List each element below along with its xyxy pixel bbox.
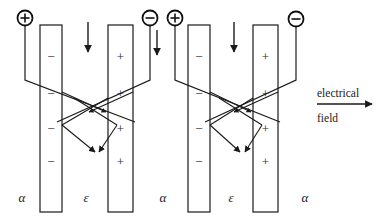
plate-4-sign: +: [262, 154, 269, 169]
wire-cell2-right: [205, 27, 296, 122]
plate-1-sign: −: [47, 49, 54, 64]
region-label-epsilon-1: ε: [83, 190, 89, 205]
trajectory-cell2-down-left: [210, 125, 240, 152]
plate-2-sign: +: [117, 49, 124, 64]
plate-2-sign: +: [117, 154, 124, 169]
plate-3-sign: −: [195, 49, 202, 64]
electrical-field-label-line1: electrical: [317, 87, 359, 99]
trajectory-cell1-down-left: [62, 125, 95, 152]
plate-group-4: + + + +: [253, 25, 278, 212]
terminal-4-minus: [289, 12, 304, 27]
diagram-canvas: − − − − + + + + − − − − + + + +: [0, 0, 387, 219]
terminal-3-plus: [168, 11, 183, 26]
region-label-epsilon-2: ε: [228, 190, 234, 205]
plate-group-3: − − − −: [188, 25, 210, 212]
plate-1-sign: −: [47, 121, 54, 136]
electrical-field-annotation: electrical field: [317, 87, 372, 124]
terminal-2-minus: [143, 11, 158, 26]
plate-4-sign: +: [262, 49, 269, 64]
region-label-alpha-3: α: [302, 190, 310, 205]
terminal-1-plus: [18, 11, 33, 26]
electrical-field-label-line2: field: [317, 112, 338, 124]
plate-1-sign: −: [47, 86, 54, 101]
trajectory-cell1-in-left: [62, 92, 106, 112]
plate-2-sign: +: [117, 121, 124, 136]
physics-diagram-svg: − − − − + + + + − − − − + + + +: [0, 0, 387, 219]
region-label-alpha-2: α: [160, 190, 168, 205]
trajectory-cell2-in-left: [210, 92, 251, 112]
plate-1-sign: −: [47, 154, 54, 169]
plate-3-sign: −: [195, 121, 202, 136]
plate-group-2: + + + +: [108, 25, 133, 212]
plate-3-sign: −: [195, 154, 202, 169]
region-label-alpha-1: α: [19, 190, 27, 205]
wire-cell1-right: [57, 26, 150, 122]
plate-4-sign: +: [262, 121, 269, 136]
plate-group-1: − − − −: [40, 25, 62, 212]
